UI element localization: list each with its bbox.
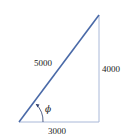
triangle-diagram: ϕ 5000 4000 3000 bbox=[0, 0, 137, 137]
vertical-leg-label: 4000 bbox=[102, 64, 121, 74]
hypotenuse bbox=[19, 15, 99, 122]
horizontal-leg-label: 3000 bbox=[48, 126, 67, 136]
hypotenuse-label: 5000 bbox=[34, 58, 53, 68]
angle-label: ϕ bbox=[45, 104, 51, 114]
angle-arc bbox=[36, 104, 43, 122]
